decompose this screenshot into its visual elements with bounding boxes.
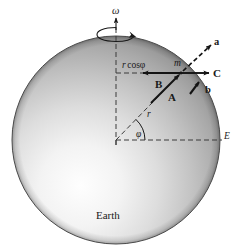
r-cos-phi-label: rcosφ [122, 60, 146, 70]
angle-phi-label: φ [136, 129, 141, 139]
radius-r-label: r [147, 109, 151, 119]
vector-A-label: A [168, 91, 176, 103]
mass-m-label: m [174, 58, 181, 68]
vector-a-label: a [214, 36, 220, 47]
earth-caption-label: Earth [96, 209, 120, 221]
vector-B-label: B [155, 78, 163, 90]
point-mass-marker [180, 72, 183, 75]
equator-E-label: E [223, 131, 230, 141]
vector-b-label: b [205, 84, 211, 95]
vector-C-label: C [213, 67, 221, 79]
omega-label: ω [112, 5, 119, 16]
earth-rotation-diagram: ω [0, 0, 237, 251]
